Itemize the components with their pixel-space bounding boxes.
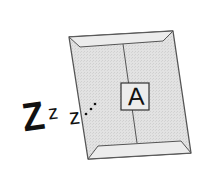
envelope-label: A — [124, 81, 147, 112]
dot-icon — [85, 113, 88, 116]
sleep-z-medium: z — [47, 102, 59, 123]
sleep-z-small: z — [68, 105, 81, 128]
dot-icon — [94, 103, 97, 106]
illustration: A Z z z — [0, 0, 200, 174]
dot-icon — [90, 108, 93, 111]
